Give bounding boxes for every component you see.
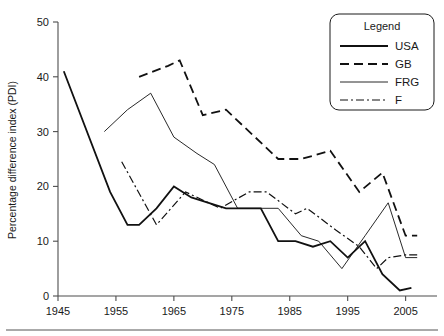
x-tick-label: 1955 [104, 305, 128, 317]
legend-title: Legend [364, 20, 401, 32]
y-axis-title: Percentage difference index (PDI) [6, 81, 18, 239]
x-tick-label: 1945 [46, 305, 70, 317]
legend-label-frg: FRG [395, 76, 419, 88]
y-tick-label: 30 [37, 126, 49, 138]
series-line-frg [104, 93, 417, 268]
y-axis-ticks: 01020304050 [37, 16, 58, 302]
x-tick-label: 2005 [393, 305, 417, 317]
legend-label-gb: GB [395, 58, 412, 70]
x-tick-label: 1965 [162, 305, 186, 317]
x-tick-label: 1985 [278, 305, 302, 317]
pdi-line-chart: Percentage difference index (PDI) 010203… [0, 0, 444, 336]
y-tick-label: 50 [37, 16, 49, 28]
y-tick-label: 0 [43, 290, 49, 302]
y-tick-label: 40 [37, 71, 49, 83]
series-line-f [122, 162, 418, 269]
x-tick-label: 1975 [220, 305, 244, 317]
y-tick-label: 20 [37, 180, 49, 192]
legend-label-usa: USA [395, 40, 419, 52]
legend-label-f: F [395, 94, 402, 106]
x-tick-label: 1995 [335, 305, 359, 317]
legend: Legend USAGBFRGF [330, 14, 434, 110]
y-tick-label: 10 [37, 235, 49, 247]
x-axis-ticks: 1945195519651975198519952005 [46, 296, 418, 317]
